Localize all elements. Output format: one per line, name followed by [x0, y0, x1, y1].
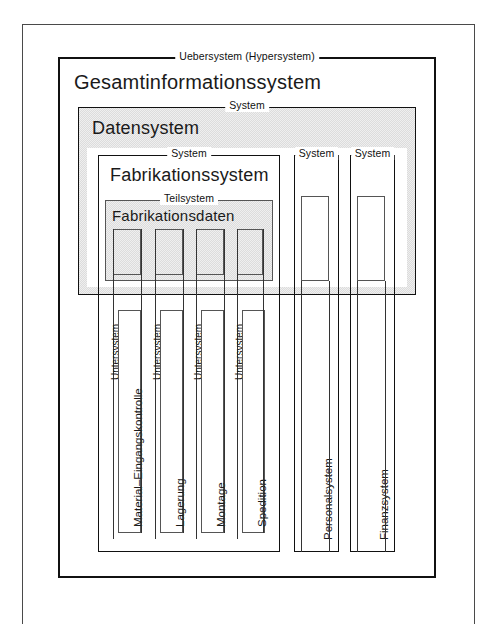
finanzsystem-chip [357, 196, 385, 281]
untersystem-label: Lagerung [174, 478, 187, 527]
uebersystem-caption: Uebersystem (Hypersystem) [175, 50, 319, 63]
fabrikationsdaten-label: Fabrikationsdaten [112, 207, 235, 225]
fabrikationssystem-caption: System [167, 147, 211, 160]
personalsystem-chip [301, 196, 329, 281]
untersystem-label: Material–Eingangskontrolle [132, 388, 145, 527]
untersystem-connector [141, 229, 142, 533]
datensystem-label: Datensystem [92, 116, 199, 140]
fabrikationsdaten-chip [113, 229, 141, 275]
untersystem-connector [155, 229, 156, 539]
personalsystem-connector [301, 281, 302, 552]
untersystem-connector [263, 229, 264, 533]
untersystem-connector [237, 229, 238, 539]
finanzsystem-caption: System [351, 147, 395, 160]
personalsystem-connector [329, 281, 330, 552]
untersystem-connector [196, 229, 197, 539]
untersystem-connector [113, 229, 114, 539]
fabrikationsdaten-chip [237, 229, 263, 275]
finanzsystem-connector [385, 281, 386, 552]
datensystem-caption: System [225, 99, 269, 112]
untersystem-connector [183, 229, 184, 533]
finanzsystem-connector [357, 281, 358, 552]
personalsystem-caption: System [295, 147, 339, 160]
fabrikationssystem-label: Fabrikationssystem [110, 163, 269, 187]
untersystem-connector [224, 229, 225, 533]
fabrikationsdaten-caption: Teilsystem [160, 192, 218, 205]
fabrikationsdaten-chip [155, 229, 183, 275]
gesamtinformationssystem-label: Gesamtinformationssystem [74, 70, 321, 94]
fabrikationsdaten-chip [196, 229, 224, 275]
untersystem-label: Montage [215, 482, 228, 527]
